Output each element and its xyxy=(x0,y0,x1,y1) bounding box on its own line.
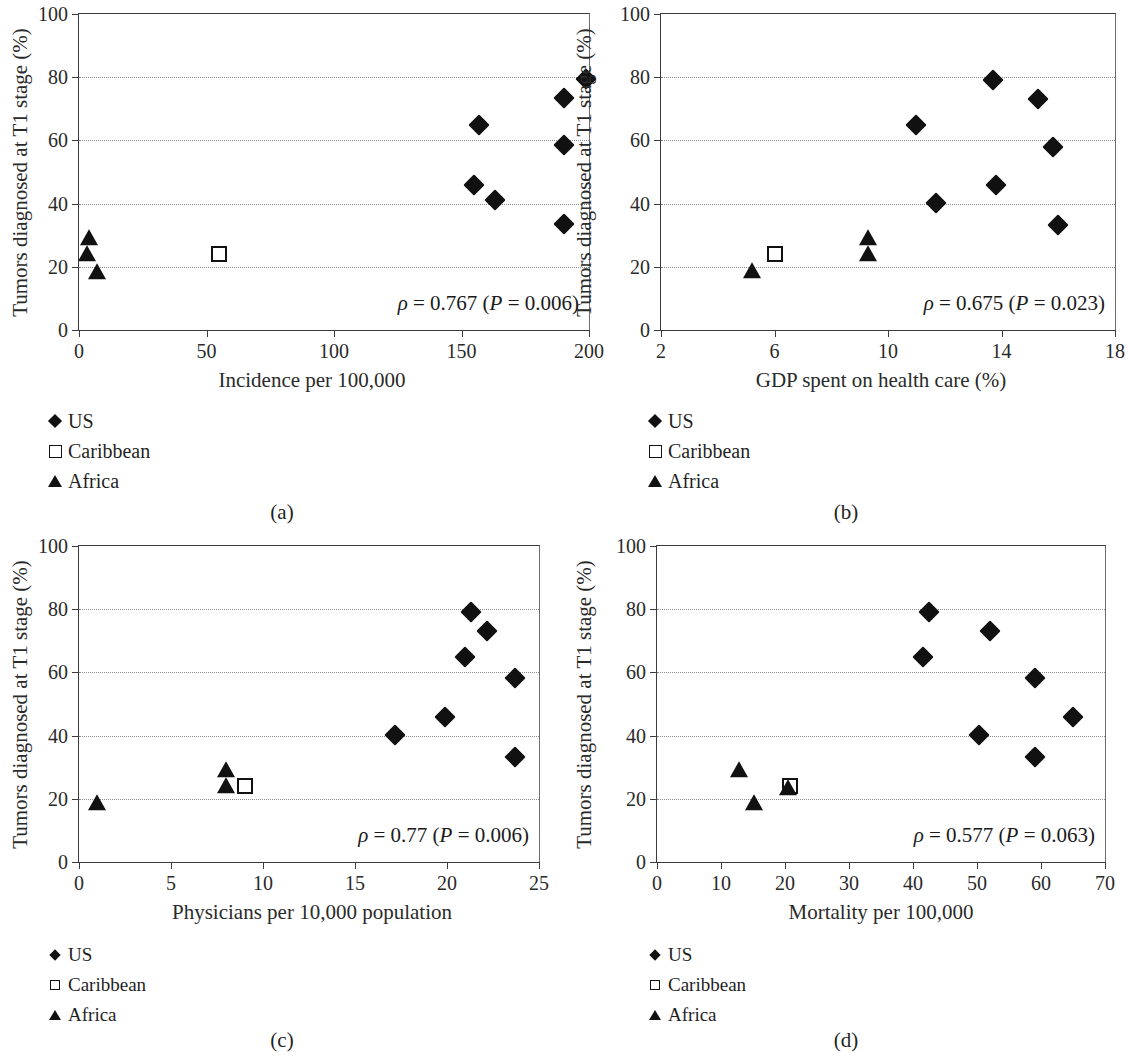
data-point-us xyxy=(906,114,927,135)
correlation-annotation: ρ = 0.77 (P = 0.006) xyxy=(358,823,529,848)
y-axis-tick xyxy=(654,204,661,205)
y-axis-tick-label: 60 xyxy=(48,661,68,684)
plot-area-c: 0204060801000510152025ρ = 0.77 (P = 0.00… xyxy=(78,545,540,863)
data-point-us xyxy=(979,621,1000,642)
gridline xyxy=(79,799,539,800)
x-axis-label-a: Incidence per 100,000 xyxy=(0,368,564,393)
data-point-africa xyxy=(78,245,96,261)
x-axis-label-d: Mortality per 100,000 xyxy=(564,900,1128,925)
x-axis-tick-label: 10 xyxy=(253,872,273,895)
data-point-caribbean xyxy=(767,246,783,262)
gridline xyxy=(79,140,589,141)
data-point-africa xyxy=(745,794,763,810)
x-axis-tick xyxy=(539,862,540,869)
y-axis-tick xyxy=(72,267,79,268)
x-axis-tick-label: 2 xyxy=(656,340,666,363)
data-point-us xyxy=(484,190,505,211)
y-axis-tick xyxy=(72,14,79,15)
y-axis-tick xyxy=(654,267,661,268)
y-axis-tick xyxy=(72,672,79,673)
x-axis-tick-label: 50 xyxy=(197,340,217,363)
x-axis-tick xyxy=(263,862,264,869)
gridline xyxy=(657,799,1105,800)
y-axis-tick xyxy=(72,330,79,331)
legend-label-africa: Africa xyxy=(668,470,719,493)
y-axis-tick xyxy=(650,799,657,800)
x-axis-tick xyxy=(977,862,978,869)
data-point-africa xyxy=(80,230,98,246)
y-axis-tick-label: 60 xyxy=(630,129,650,152)
y-axis-tick xyxy=(72,862,79,863)
x-axis-tick-label: 0 xyxy=(74,872,84,895)
y-axis-tick-label: 100 xyxy=(616,535,646,558)
y-axis-label-c: Tumors diagnosed at T1 stage (%) xyxy=(6,545,34,863)
x-axis-tick-label: 14 xyxy=(992,340,1012,363)
plot-wrap-a: 020406080100050100150200ρ = 0.767 (P = 0… xyxy=(78,13,590,331)
y-axis-tick-label: 100 xyxy=(38,535,68,558)
x-axis-label-b: GDP spent on health care (%) xyxy=(564,368,1128,393)
y-axis-tick xyxy=(650,862,657,863)
data-point-us xyxy=(1028,89,1049,110)
x-axis-tick xyxy=(913,862,914,869)
legend-label-caribbean: Caribbean xyxy=(668,440,750,463)
data-point-us xyxy=(985,174,1006,195)
x-axis-tick xyxy=(775,330,776,337)
legend-c: US Caribbean Africa xyxy=(42,940,146,1030)
x-axis-tick-label: 30 xyxy=(839,872,859,895)
x-axis-tick-label: 10 xyxy=(711,872,731,895)
correlation-annotation: ρ = 0.767 (P = 0.006) xyxy=(398,291,579,316)
y-axis-tick-label: 20 xyxy=(626,787,646,810)
gridline xyxy=(657,609,1105,610)
open-square-icon xyxy=(642,445,668,458)
y-axis-tick xyxy=(650,546,657,547)
x-axis-tick xyxy=(1002,330,1003,337)
legend-item-caribbean: Caribbean xyxy=(42,970,146,1000)
y-axis-tick-label: 20 xyxy=(48,255,68,278)
x-axis-tick xyxy=(1105,862,1106,869)
y-axis-tick xyxy=(650,609,657,610)
data-point-africa xyxy=(88,263,106,279)
data-point-us xyxy=(435,706,456,727)
y-axis-tick xyxy=(654,140,661,141)
y-axis-tick-label: 40 xyxy=(630,192,650,215)
x-axis-tick-label: 5 xyxy=(166,872,176,895)
panel-caption-b: (b) xyxy=(564,500,1128,525)
x-axis-label-c: Physicians per 10,000 population xyxy=(0,900,564,925)
y-axis-tick-label: 80 xyxy=(630,66,650,89)
y-axis-tick-label: 20 xyxy=(48,787,68,810)
y-axis-tick xyxy=(654,77,661,78)
x-axis-tick xyxy=(447,862,448,869)
filled-diamond-icon xyxy=(42,416,68,426)
x-axis-tick-label: 20 xyxy=(437,872,457,895)
data-point-caribbean xyxy=(237,778,253,794)
panel-caption-d: (d) xyxy=(564,1028,1128,1053)
filled-diamond-icon xyxy=(42,951,68,959)
data-point-us xyxy=(460,602,481,623)
x-axis-tick xyxy=(355,862,356,869)
data-point-africa xyxy=(217,777,235,793)
legend-label-africa: Africa xyxy=(68,470,119,493)
y-axis-tick xyxy=(654,330,661,331)
filled-diamond-icon xyxy=(642,951,668,959)
legend-item-caribbean: Caribbean xyxy=(42,436,150,466)
x-axis-tick xyxy=(1115,330,1116,337)
data-point-us xyxy=(912,646,933,667)
panel-a: Tumors diagnosed at T1 stage (%) 0204060… xyxy=(0,0,564,532)
x-axis-tick xyxy=(171,862,172,869)
gridline xyxy=(661,77,1115,78)
x-axis-tick-label: 70 xyxy=(1095,872,1115,895)
x-axis-tick xyxy=(79,862,80,869)
legend-item-us: US xyxy=(42,940,146,970)
data-point-us xyxy=(968,724,989,745)
data-point-us xyxy=(1024,746,1045,767)
open-square-icon xyxy=(42,980,68,990)
y-axis-tick xyxy=(72,736,79,737)
x-axis-tick xyxy=(785,862,786,869)
x-axis-tick-label: 50 xyxy=(967,872,987,895)
y-axis-tick xyxy=(654,14,661,15)
gridline xyxy=(79,267,589,268)
y-axis-tick-label: 100 xyxy=(620,3,650,26)
data-point-us xyxy=(982,70,1003,91)
data-point-us xyxy=(504,667,525,688)
panel-b: Tumors diagnosed at T1 stage (%) 0204060… xyxy=(564,0,1128,532)
